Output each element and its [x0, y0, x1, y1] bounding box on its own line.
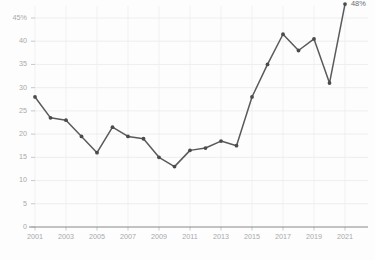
data-point	[312, 37, 316, 41]
y-axis-tick-label: 10	[19, 175, 27, 184]
data-point	[173, 165, 177, 169]
data-annotations: 48%	[351, 0, 366, 8]
data-point	[328, 81, 332, 85]
data-point	[111, 125, 115, 129]
horizontal-gridlines	[35, 18, 368, 204]
data-point	[297, 49, 301, 53]
data-point	[142, 137, 146, 141]
x-axis-tick-label: 2015	[244, 232, 260, 241]
y-axis-tick-label: 5	[23, 199, 27, 208]
data-point	[204, 146, 208, 150]
data-point	[281, 32, 285, 36]
y-axis-tick-label: 0	[23, 222, 27, 231]
data-point	[64, 118, 68, 122]
data-point	[219, 139, 223, 143]
y-axis-tick-label: 30	[19, 83, 27, 92]
data-point	[33, 95, 37, 99]
x-axis-tick-label: 2009	[151, 232, 167, 241]
y-axis-tick-label: 25	[19, 106, 27, 115]
data-point	[188, 148, 192, 152]
x-axis-tick-label: 2013	[213, 232, 229, 241]
x-axis-tick-labels: 2001200320052007200920112013201520172019…	[27, 232, 353, 241]
y-axis-tick-label: 45%	[13, 13, 28, 22]
y-axis-tick-label: 15	[19, 152, 27, 161]
y-axis-tick-label: 20	[19, 129, 27, 138]
x-axis-tick-label: 2019	[306, 232, 322, 241]
x-axis-tick-label: 2007	[120, 232, 136, 241]
data-point	[126, 135, 130, 139]
data-point	[266, 63, 270, 67]
data-point	[80, 135, 84, 139]
data-point	[157, 155, 161, 159]
data-point	[343, 2, 347, 6]
x-axis-tick-label: 2017	[275, 232, 291, 241]
x-axis-tick-label: 2003	[58, 232, 74, 241]
x-axis-tick-label: 2005	[89, 232, 105, 241]
x-axis-tick-label: 2011	[182, 232, 197, 241]
data-point	[235, 144, 239, 148]
y-axis-tick-marks	[31, 18, 35, 227]
data-point	[49, 116, 53, 120]
data-label-annotation: 48%	[351, 0, 366, 8]
y-axis-tick-label: 35	[19, 59, 27, 68]
data-point	[250, 95, 254, 99]
line-chart-svg: 051015202530354045% 20012003200520072009…	[0, 0, 375, 260]
line-chart-container: 051015202530354045% 20012003200520072009…	[0, 0, 375, 260]
y-axis-tick-label: 40	[19, 36, 27, 45]
y-axis-tick-labels: 051015202530354045%	[13, 13, 28, 231]
vertical-gridlines	[35, 6, 345, 227]
x-axis-tick-label: 2001	[27, 232, 43, 241]
data-point	[95, 151, 99, 155]
x-axis-tick-label: 2021	[337, 232, 353, 241]
